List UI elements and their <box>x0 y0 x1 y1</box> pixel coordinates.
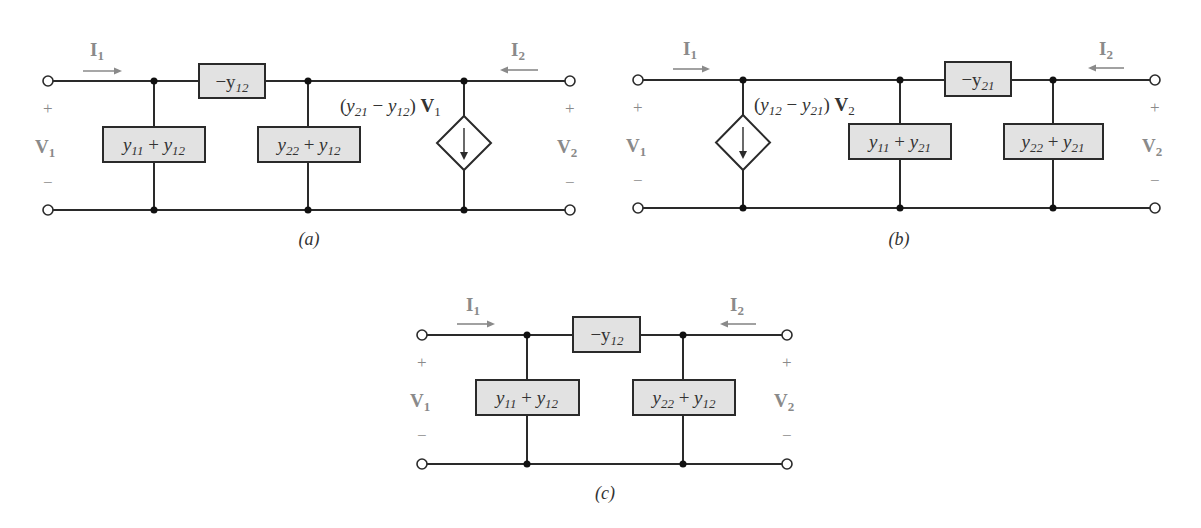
port1-top-terminal <box>417 330 427 340</box>
voltage-V1-label: V1 <box>35 136 55 160</box>
junction-node <box>524 332 531 339</box>
junction-node <box>897 205 904 212</box>
port2-plus-sign: + <box>782 353 792 372</box>
port1-plus-sign: + <box>43 99 53 118</box>
circuit-figure: −y12 y11 + y12 y22 + y12 (y21 − y12) V1 … <box>0 0 1201 528</box>
circuit-b: (y12 − y21) V2 y11 + y21 −y21 y22 + y21 … <box>626 38 1162 250</box>
port1-plus-sign: + <box>633 98 643 117</box>
port2-minus-sign: − <box>1150 171 1160 190</box>
junction-node <box>305 78 312 85</box>
port2-top-terminal <box>782 330 792 340</box>
circuit-c: −y12 y11 + y12 y22 + y12 I1 + V1 − I2 + … <box>410 294 794 504</box>
port2-plus-sign: + <box>565 99 575 118</box>
voltage-V1-label: V1 <box>410 390 430 414</box>
voltage-V2-label: V2 <box>774 390 794 414</box>
voltage-V2-label: V2 <box>557 136 577 160</box>
dependent-source-label: (y21 − y12) V1 <box>340 95 441 119</box>
port2-plus-sign: + <box>1150 98 1160 117</box>
port1-top-terminal <box>43 76 53 86</box>
port1-top-terminal <box>633 75 643 85</box>
current-I2-label: I2 <box>511 39 525 63</box>
arrow-right-icon <box>702 66 710 73</box>
junction-node <box>1050 205 1057 212</box>
caption-a: (a) <box>299 229 320 250</box>
port2-bottom-terminal <box>782 459 792 469</box>
junction-node <box>1050 77 1057 84</box>
junction-node <box>740 77 747 84</box>
circuit-a: −y12 y11 + y12 y22 + y12 (y21 − y12) V1 … <box>35 39 577 250</box>
port2-bottom-terminal <box>1150 203 1160 213</box>
voltage-V2-label: V2 <box>1142 135 1162 159</box>
arrow-left-icon <box>720 321 728 328</box>
caption-b: (b) <box>889 229 910 250</box>
port2-top-terminal <box>1150 75 1160 85</box>
current-I1-label: I1 <box>466 294 480 318</box>
junction-node <box>151 78 158 85</box>
port1-minus-sign: − <box>417 426 427 445</box>
port1-minus-sign: − <box>43 173 53 192</box>
caption-c: (c) <box>595 483 615 504</box>
port2-minus-sign: − <box>565 173 575 192</box>
arrow-right-icon <box>487 321 495 328</box>
arrow-left-icon <box>1088 65 1096 72</box>
port1-bottom-terminal <box>43 205 53 215</box>
junction-node <box>897 77 904 84</box>
current-I2-label: I2 <box>1099 38 1113 62</box>
port2-minus-sign: − <box>782 426 792 445</box>
arrow-left-icon <box>500 67 508 74</box>
current-I2-label: I2 <box>730 294 744 318</box>
port1-bottom-terminal <box>417 459 427 469</box>
junction-node <box>461 207 468 214</box>
port1-plus-sign: + <box>417 353 427 372</box>
port2-top-terminal <box>565 76 575 86</box>
current-I1-label: I1 <box>90 39 104 63</box>
junction-node <box>151 207 158 214</box>
port1-minus-sign: − <box>633 171 643 190</box>
port1-bottom-terminal <box>633 203 643 213</box>
port2-bottom-terminal <box>565 205 575 215</box>
dependent-source-label: (y12 − y21) V2 <box>754 94 855 118</box>
voltage-V1-label: V1 <box>626 135 646 159</box>
junction-node <box>524 461 531 468</box>
junction-node <box>305 207 312 214</box>
junction-node <box>740 205 747 212</box>
junction-node <box>680 332 687 339</box>
junction-node <box>680 461 687 468</box>
junction-node <box>461 78 468 85</box>
arrow-right-icon <box>114 68 122 75</box>
current-I1-label: I1 <box>683 38 697 62</box>
